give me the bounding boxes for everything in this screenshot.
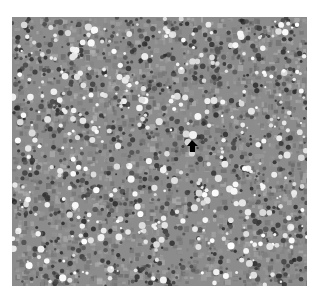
micrograph-image xyxy=(12,17,307,286)
target-cell xyxy=(189,131,197,139)
tissue-texture xyxy=(12,17,307,286)
arrow-up-icon xyxy=(185,130,201,154)
